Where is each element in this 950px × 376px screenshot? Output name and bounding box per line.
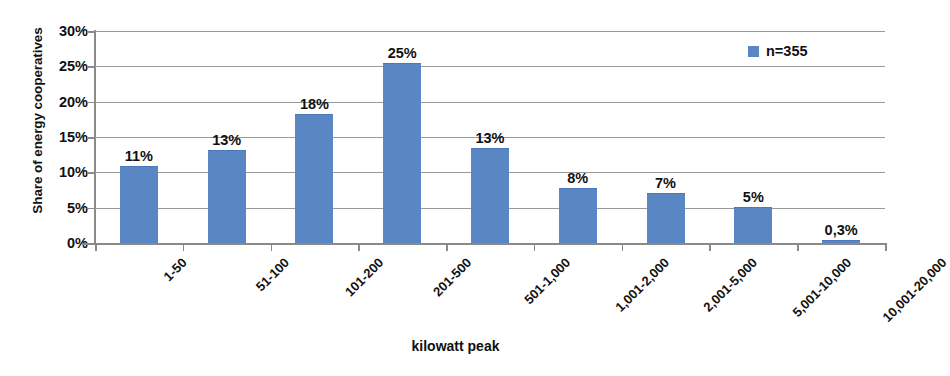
bar[interactable] [120, 166, 158, 243]
x-axis-tick-mark [534, 243, 536, 251]
y-axis-tick-mark [87, 243, 95, 245]
x-axis-category-label: 10,001-20,000 [880, 255, 950, 325]
y-axis-tick-label: 15% [36, 129, 88, 145]
plot-area: 11%13%18%25%13%8%7%5%0,3% [95, 31, 885, 243]
legend-label: n=355 [766, 43, 808, 59]
x-axis-tick-mark [622, 243, 624, 251]
x-axis-tick-mark [183, 243, 185, 251]
bar-slot: 0,3% [797, 31, 885, 243]
x-axis-title: kilowatt peak [0, 338, 911, 354]
x-axis-tick-mark [95, 243, 97, 251]
bar[interactable] [559, 188, 597, 243]
x-axis-tick-mark [709, 243, 711, 251]
legend-swatch-icon [748, 46, 759, 57]
bar[interactable] [295, 114, 333, 243]
x-axis-category-label: 201-500 [430, 255, 474, 299]
bar-value-label: 13% [183, 132, 271, 148]
bar-slot: 11% [95, 31, 183, 243]
bar-slot: 13% [446, 31, 534, 243]
y-axis-tick-mark [87, 137, 95, 139]
y-axis-tick-label: 25% [36, 58, 88, 74]
bar[interactable] [208, 150, 246, 243]
legend: n=355 [748, 43, 808, 59]
x-axis-tick-mark [271, 243, 273, 251]
y-axis-tick-mark [87, 31, 95, 33]
x-axis-category-label: 1,001-2,000 [612, 255, 672, 315]
bar-value-label: 7% [622, 175, 710, 191]
bar-value-label: 25% [358, 45, 446, 61]
x-axis-tick-mark [358, 243, 360, 251]
bar-value-label: 8% [534, 170, 622, 186]
bar-slot: 7% [622, 31, 710, 243]
bar-value-label: 0,3% [797, 222, 885, 238]
x-axis-category-label: 1-50 [160, 255, 189, 284]
bar[interactable] [734, 207, 772, 243]
y-axis-tick-labels: 0%5%10%15%20%25%30% [30, 0, 88, 376]
x-axis-category-label: 501-1,000 [521, 255, 573, 307]
bar-value-label: 18% [271, 96, 359, 112]
y-axis-tick-mark [87, 66, 95, 68]
y-axis-tick-label: 0% [36, 235, 88, 251]
bar-slot: 18% [271, 31, 359, 243]
bar[interactable] [383, 63, 421, 243]
x-axis-category-label: 101-200 [342, 255, 386, 299]
y-axis-tick-mark [87, 208, 95, 210]
y-axis-tick-label: 20% [36, 94, 88, 110]
y-axis-tick-label: 10% [36, 164, 88, 180]
bar-value-label: 11% [95, 148, 183, 164]
x-axis-tick-mark [797, 243, 799, 251]
bar-slot: 5% [709, 31, 797, 243]
bar-slot: 25% [358, 31, 446, 243]
x-axis-category-label: 51-100 [253, 255, 292, 294]
x-axis-category-label: 2,001-5,000 [700, 255, 760, 315]
bar-value-label: 5% [709, 189, 797, 205]
x-axis-tick-mark [885, 243, 887, 251]
y-axis-tick-label: 5% [36, 200, 88, 216]
x-axis-tick-mark [446, 243, 448, 251]
bar[interactable] [647, 193, 685, 243]
bar-value-label: 13% [446, 130, 534, 146]
bar[interactable] [471, 148, 509, 243]
x-axis-category-label: 5,001-10,000 [790, 255, 855, 320]
y-axis-tick-mark [87, 172, 95, 174]
x-axis-line [82, 243, 885, 245]
y-axis-tick-mark [87, 102, 95, 104]
bar-slot: 13% [183, 31, 271, 243]
bar-slot: 8% [534, 31, 622, 243]
y-axis-tick-label: 30% [36, 23, 88, 39]
bar[interactable] [822, 240, 860, 243]
